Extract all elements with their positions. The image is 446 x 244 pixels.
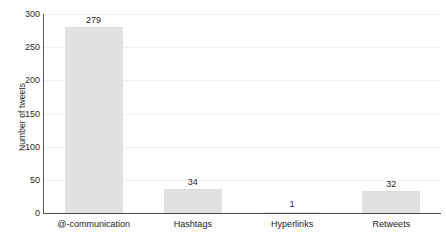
- x-tick-label: Hyperlinks: [271, 219, 313, 229]
- bar-value-label: 34: [188, 177, 198, 187]
- bar-hashtags: [164, 189, 222, 213]
- bar-retweets: [362, 191, 420, 213]
- y-tick-label: 150: [6, 109, 40, 119]
- y-tick-label: 300: [6, 9, 40, 19]
- bar-value-label: 279: [86, 15, 101, 25]
- x-axis-line: [43, 213, 441, 214]
- x-tick-label: Hashtags: [174, 219, 212, 229]
- bar-communication: [65, 27, 123, 213]
- bar-value-label: 1: [290, 199, 295, 209]
- bar-value-label: 32: [386, 179, 396, 189]
- gridline: [44, 14, 441, 15]
- y-tick-label: 250: [6, 42, 40, 52]
- x-tick-label: @-communication: [57, 219, 130, 229]
- y-axis-line: [43, 14, 44, 214]
- x-tick-label: Retweets: [373, 219, 411, 229]
- y-tick-label: 100: [6, 142, 40, 152]
- y-tick-label: 50: [6, 175, 40, 185]
- y-axis-ticks: 050100150200250300: [0, 0, 40, 244]
- y-tick-label: 0: [6, 208, 40, 218]
- y-tick-label: 200: [6, 75, 40, 85]
- bar-chart: Number of tweets 050100150200250300 2793…: [0, 0, 446, 244]
- plot-area: [44, 14, 441, 213]
